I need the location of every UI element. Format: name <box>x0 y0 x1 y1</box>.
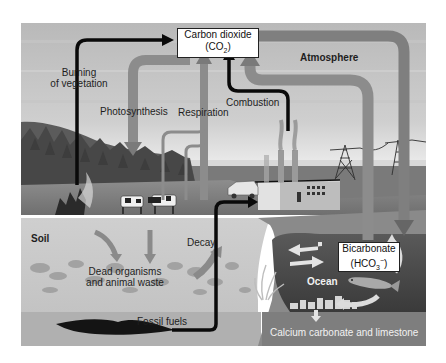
dead-organisms-line1: Dead organisms <box>80 266 170 277</box>
photosynthesis-label: Photosynthesis <box>100 106 168 117</box>
co2-node-formula: (CO2) <box>178 41 258 57</box>
atmosphere-label: Atmosphere <box>300 52 358 63</box>
dead-organisms-line2: and animal waste <box>80 277 170 288</box>
burning-label-line1: Burning <box>44 67 114 78</box>
decay-label: Decay <box>187 237 215 248</box>
burning-label: Burning of vegetation <box>44 67 114 89</box>
soil-label: Soil <box>31 233 49 244</box>
burning-label-line2: of vegetation <box>44 78 114 89</box>
dead-organisms-label: Dead organisms and animal waste <box>80 266 170 288</box>
co2-node-title: Carbon dioxide <box>178 29 258 41</box>
co2-node: Carbon dioxide (CO2) <box>177 28 259 58</box>
bicarbonate-node-title: Bicarbonate <box>339 243 399 255</box>
ocean-label: Ocean <box>307 276 338 287</box>
respiration-label: Respiration <box>178 107 229 118</box>
fossil-fuels-label: Fossil fuels <box>137 316 187 327</box>
combustion-label: Combustion <box>226 97 279 108</box>
bicarbonate-node: Bicarbonate (HCO3−) <box>338 242 400 272</box>
calcium-carbonate-label: Calcium carbonate and limestone <box>270 327 418 338</box>
bicarbonate-node-formula: (HCO3−) <box>339 255 399 274</box>
